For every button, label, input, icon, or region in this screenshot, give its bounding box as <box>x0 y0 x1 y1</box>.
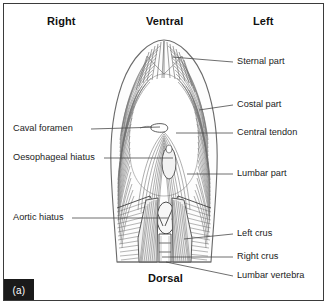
callout-label-caval-foramen: Caval foramen <box>13 123 73 133</box>
orientation-label-ventral: Ventral <box>146 15 183 27</box>
callout-label-right-crus: Right crus <box>237 251 278 261</box>
callout-label-central-tendon: Central tendon <box>237 127 297 137</box>
orientation-label-left: Left <box>253 15 274 27</box>
diaphragm-figure-panel: Right Ventral Left Dorsal Sternal part C… <box>0 0 328 305</box>
callout-label-costal-part: Costal part <box>237 99 281 109</box>
callout-label-lumbar-part: Lumbar part <box>237 168 287 178</box>
orientation-label-dorsal: Dorsal <box>148 272 183 284</box>
lumbar-vertebra <box>159 234 171 262</box>
orientation-label-right: Right <box>47 15 76 27</box>
callout-label-oesophageal-hiatus: Oesophageal hiatus <box>13 152 95 162</box>
callout-label-lumbar-vertebra: Lumbar vertebra <box>237 270 304 280</box>
panel-tag: (a) <box>4 279 34 301</box>
callout-label-left-crus: Left crus <box>237 228 272 238</box>
callout-label-sternal-part: Sternal part <box>237 56 285 66</box>
callout-label-aortic-hiatus: Aortic hiatus <box>13 212 64 222</box>
